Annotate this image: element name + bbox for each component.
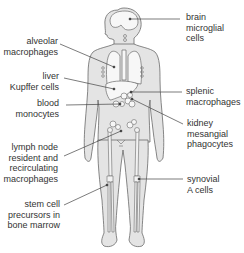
- label-text: kidney: [187, 118, 233, 129]
- label-text: stem cell: [7, 199, 60, 210]
- label-text: lymph node: [3, 142, 58, 153]
- label-kidney: kidney mesangial phagocytes: [187, 118, 233, 150]
- label-text: macrophages: [3, 47, 58, 58]
- label-text: blood: [15, 98, 59, 109]
- label-text: precursors in: [7, 210, 60, 221]
- label-text: microglial cells: [186, 23, 244, 44]
- label-text: resident and: [3, 153, 58, 164]
- label-text: splenic: [186, 86, 241, 97]
- label-text: macrophages: [186, 97, 241, 108]
- label-text: bone marrow: [7, 220, 60, 231]
- label-stem-cell: stem cell precursors in bone marrow: [7, 199, 60, 231]
- label-text: synovial: [187, 174, 220, 185]
- label-brain: brain microglial cells: [186, 12, 244, 44]
- label-text: monocytes: [15, 109, 59, 120]
- lungs-organ: [106, 50, 141, 84]
- label-synovial: synovial A cells: [187, 174, 220, 195]
- label-text: brain: [186, 12, 244, 23]
- label-blood: blood monocytes: [15, 98, 59, 119]
- label-text: mesangial: [187, 129, 233, 140]
- body-silhouette: [84, 8, 164, 247]
- label-text: A cells: [187, 185, 220, 196]
- label-alveolar: alveolar macrophages: [3, 36, 58, 57]
- label-text: alveolar: [3, 36, 58, 47]
- label-lymph-node: lymph node resident and recirculating ma…: [3, 142, 58, 184]
- label-splenic: splenic macrophages: [186, 86, 241, 107]
- label-text: recirculating: [3, 163, 58, 174]
- label-text: liver: [10, 71, 59, 82]
- brain-organ: [110, 11, 138, 30]
- label-text: macrophages: [3, 174, 58, 185]
- label-text: phagocytes: [187, 139, 233, 150]
- label-text: Kupffer cells: [10, 82, 59, 93]
- label-liver: liver Kupffer cells: [10, 71, 59, 92]
